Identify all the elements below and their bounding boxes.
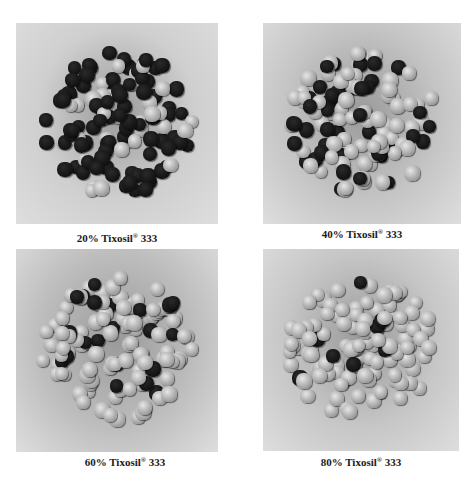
caption-grade: 333	[385, 456, 402, 468]
caption-percent: 80%	[321, 456, 343, 468]
bead	[79, 67, 95, 83]
bead	[326, 349, 340, 363]
bead	[367, 140, 380, 153]
registered-mark: ®	[133, 232, 138, 240]
bead	[388, 146, 401, 159]
beads-photo	[16, 249, 218, 452]
bead	[82, 362, 97, 377]
registered-mark: ®	[377, 456, 382, 464]
bead	[135, 71, 149, 85]
caption-80-percent: 80% Tixosil® 333	[263, 456, 459, 468]
bead	[161, 140, 176, 155]
bead	[163, 158, 178, 173]
bead	[320, 60, 334, 74]
bead	[287, 136, 302, 151]
caption-percent: 40%	[322, 228, 344, 240]
bead	[283, 357, 298, 372]
bead	[126, 315, 142, 331]
caption-percent: 20%	[77, 232, 99, 244]
bead	[325, 150, 339, 164]
bead	[74, 137, 90, 153]
bead	[342, 404, 357, 419]
bead	[424, 91, 438, 105]
bead	[93, 114, 106, 127]
bead	[354, 276, 367, 289]
bead	[112, 59, 125, 72]
caption-product: Tixosil	[345, 456, 377, 468]
bead	[302, 331, 317, 346]
bead	[39, 325, 52, 338]
bead	[420, 311, 435, 326]
bead	[353, 172, 367, 186]
bead	[113, 108, 127, 122]
bead	[303, 347, 319, 363]
bead	[154, 58, 169, 73]
bead	[128, 134, 142, 148]
bead	[352, 339, 365, 352]
bead	[388, 368, 401, 381]
bead	[393, 391, 407, 405]
bead	[96, 312, 110, 326]
bead	[103, 325, 118, 340]
bead	[371, 333, 385, 347]
bead	[118, 353, 133, 368]
bead	[351, 389, 365, 403]
bead	[93, 180, 109, 196]
bead	[375, 174, 390, 189]
bead	[143, 147, 158, 162]
bead	[177, 329, 191, 343]
bead	[143, 131, 159, 147]
bead	[116, 300, 130, 314]
caption-grade: 333	[149, 456, 166, 468]
bead	[56, 92, 71, 107]
bead	[360, 296, 373, 309]
bead	[374, 385, 388, 399]
bead	[136, 84, 152, 100]
bead	[76, 395, 90, 409]
bead	[88, 346, 104, 362]
bead	[150, 282, 164, 296]
bead	[101, 95, 114, 108]
bead	[300, 389, 315, 404]
bead	[402, 66, 416, 80]
bead	[296, 373, 312, 389]
bead	[330, 283, 345, 298]
bead	[393, 311, 407, 325]
bead	[381, 82, 397, 98]
caption-product: Tixosil	[109, 456, 141, 468]
photo-60-percent	[16, 249, 218, 452]
photo-80-percent	[263, 249, 459, 451]
bead	[151, 327, 167, 343]
bead	[338, 92, 354, 108]
caption-product: Tixosil	[346, 228, 378, 240]
bead	[87, 295, 103, 311]
bead	[114, 142, 129, 157]
bead	[57, 162, 72, 177]
bead	[39, 135, 54, 150]
bead	[353, 108, 367, 122]
caption-grade: 333	[141, 232, 158, 244]
bead	[400, 341, 414, 355]
bead	[338, 181, 352, 195]
bead	[144, 106, 160, 122]
bead	[137, 400, 152, 415]
bead	[288, 117, 302, 131]
bead	[357, 368, 372, 383]
bead	[89, 161, 104, 176]
bead	[123, 78, 136, 91]
bead	[110, 379, 123, 392]
bead	[389, 118, 405, 134]
registered-mark: ®	[141, 456, 146, 464]
caption-grade: 333	[386, 228, 403, 240]
bead	[105, 167, 120, 182]
bead	[166, 314, 180, 328]
photo-20-percent	[16, 23, 218, 224]
caption-percent: 60%	[85, 456, 107, 468]
bead	[160, 371, 174, 385]
bead	[423, 120, 436, 133]
bead	[159, 352, 174, 367]
beads-photo	[263, 23, 461, 224]
bead	[336, 164, 352, 180]
bead	[39, 113, 53, 127]
bead	[55, 311, 69, 325]
